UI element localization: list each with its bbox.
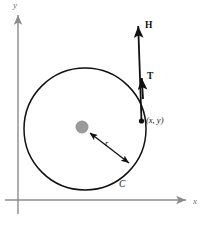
radius-label: r <box>105 139 108 148</box>
circle-label: C <box>119 180 125 190</box>
geometry-figure: y x H T (x, y) r C <box>0 0 204 231</box>
figure-canvas <box>0 0 204 231</box>
center-dot <box>76 121 89 134</box>
vector-t-line <box>142 78 143 99</box>
point-xy-dot <box>139 118 144 123</box>
vector-h-line <box>138 26 141 121</box>
vector-t-label: T <box>147 72 153 82</box>
vector-h-label: H <box>145 21 152 31</box>
y-axis-label: y <box>13 1 17 10</box>
x-axis-label: x <box>193 197 197 206</box>
point-xy-label: (x, y) <box>146 116 163 125</box>
radius-arrow <box>90 133 129 163</box>
